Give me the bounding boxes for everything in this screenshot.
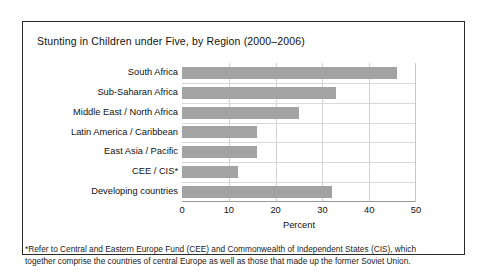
gridline-horizontal <box>182 123 415 124</box>
footnote-line-2: together comprise the countries of centr… <box>25 255 465 267</box>
y-axis-label: Developing countries <box>28 186 178 196</box>
bar-row <box>182 123 415 143</box>
bar <box>182 87 336 99</box>
x-axis-label: Percent <box>182 220 416 230</box>
y-axis-label: CEE / CIS* <box>28 166 178 176</box>
bar-row <box>182 182 415 202</box>
bar-row <box>182 63 415 83</box>
x-axis-tick: 10 <box>224 205 234 215</box>
bar-row <box>182 142 415 162</box>
footnote: *Refer to Central and Eastern Europe Fun… <box>25 243 465 267</box>
gridline-horizontal <box>182 103 415 104</box>
bar-row <box>182 162 415 182</box>
bar-chart: South AfricaSub-Saharan AfricaMiddle Eas… <box>23 60 464 210</box>
footnote-line-1: *Refer to Central and Eastern Europe Fun… <box>25 243 465 255</box>
y-axis-label: East Asia / Pacific <box>28 146 178 156</box>
x-axis-tick: 0 <box>179 205 184 215</box>
gridline-horizontal <box>182 142 415 143</box>
x-axis-tick-labels: 01020304050 <box>182 205 416 219</box>
bar <box>182 67 397 79</box>
bar <box>182 186 332 198</box>
gridline-horizontal <box>182 182 415 183</box>
plot-area <box>182 63 416 202</box>
y-axis-category-labels: South AfricaSub-Saharan AfricaMiddle Eas… <box>28 63 178 202</box>
x-axis-tick: 20 <box>270 205 280 215</box>
x-axis-tick: 40 <box>364 205 374 215</box>
gridline-horizontal <box>182 162 415 163</box>
x-axis-tick: 50 <box>411 205 421 215</box>
gridline-horizontal <box>182 83 415 84</box>
y-axis-label: South Africa <box>28 67 178 77</box>
x-axis-tick: 30 <box>317 205 327 215</box>
bar <box>182 166 238 178</box>
page-title: Stunting in Children under Five, by Regi… <box>37 35 305 47</box>
bar-row <box>182 83 415 103</box>
bar <box>182 107 299 119</box>
y-axis-label: Sub-Saharan Africa <box>28 87 178 97</box>
bar <box>182 126 257 138</box>
bar <box>182 146 257 158</box>
y-axis-label: Latin America / Caribbean <box>28 127 178 137</box>
bar-row <box>182 103 415 123</box>
figure-card: Stunting in Children under Five, by Regi… <box>22 21 465 255</box>
y-axis-label: Middle East / North Africa <box>28 107 178 117</box>
